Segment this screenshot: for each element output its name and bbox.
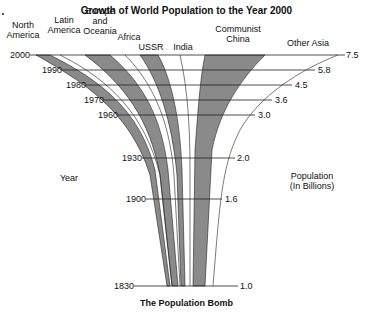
pop-label-7.5: 7.5: [346, 50, 359, 60]
year-label-1900: 1900: [112, 194, 146, 204]
band-communist-china: [193, 55, 265, 286]
population-axis-title: Population (In Billions): [282, 171, 342, 191]
population-stream-chart: [0, 0, 373, 324]
year-label-1970: 1970: [70, 95, 104, 105]
pop-label-3.0: 3.0: [258, 110, 271, 120]
year-label-1980: 1980: [52, 80, 86, 90]
chart-caption: The Population Bomb: [0, 298, 373, 308]
year-label-1830: 1830: [100, 281, 134, 291]
pop-label-5.8: 5.8: [318, 65, 331, 75]
pop-label-3.6: 3.6: [275, 95, 288, 105]
year-label-2000: 2000: [0, 50, 30, 60]
year-axis-title: Year: [54, 173, 84, 183]
pop-label-4.5: 4.5: [295, 80, 308, 90]
year-label-1960: 1960: [84, 110, 118, 120]
year-label-1930: 1930: [108, 153, 142, 163]
pop-label-1.6: 1.6: [225, 194, 238, 204]
pop-label-1.0: 1.0: [240, 281, 253, 291]
pop-label-2.0: 2.0: [237, 153, 250, 163]
year-label-1990: 1990: [28, 65, 62, 75]
